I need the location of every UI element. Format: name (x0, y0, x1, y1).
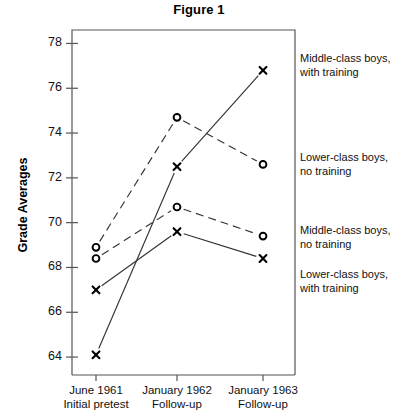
x-axis-tick-label: January 1963Follow-up (211, 383, 315, 411)
legend-label-line1: Middle-class boys, (300, 52, 398, 66)
series-2-marker-1 (174, 204, 181, 211)
y-axis-tick-label: 74 (28, 125, 62, 139)
y-axis-tick-label: 64 (28, 349, 62, 363)
legend-label-line2: with training (300, 66, 398, 80)
series-2-segment-1 (184, 209, 257, 234)
series-1-marker-2 (260, 161, 267, 168)
legend-item-1: Lower-class boys,no training (300, 151, 398, 178)
series-2-marker-0 (93, 255, 100, 262)
series-2-segment-0 (102, 211, 171, 255)
y-axis-tick-label: 70 (28, 215, 62, 229)
series-0-marker-2 (260, 67, 267, 74)
legend-label-line1: Lower-class boys, (300, 151, 398, 165)
series-3-marker-1 (174, 228, 181, 235)
figure-container: Figure 1 Grade Averages 6466687072747678… (0, 0, 398, 420)
x-tick-line2: Follow-up (211, 397, 315, 411)
series-1-marker-0 (93, 244, 100, 251)
series-3-segment-1 (184, 234, 257, 257)
y-axis-tick-label: 78 (28, 35, 62, 49)
y-axis-tick-label: 76 (28, 80, 62, 94)
legend-label-line2: no training (300, 238, 398, 252)
series-0-marker-0 (93, 351, 100, 358)
legend-item-0: Middle-class boys,with training (300, 52, 398, 79)
plot-frame (72, 30, 295, 375)
legend-label-line1: Lower-class boys, (300, 268, 398, 282)
series-1-segment-1 (183, 121, 257, 161)
legend-label-line2: no training (300, 165, 398, 179)
series-3-marker-0 (93, 286, 100, 293)
y-axis-tick-label: 68 (28, 259, 62, 273)
series-3-segment-0 (102, 236, 172, 286)
y-axis-tick-label: 66 (28, 304, 62, 318)
series-2-marker-2 (260, 233, 267, 240)
legend-label-line2: with training (300, 282, 398, 296)
series-1-marker-1 (174, 114, 181, 121)
series-1-segment-0 (100, 123, 174, 241)
series-3-marker-2 (260, 255, 267, 262)
x-tick-line1: January 1963 (211, 383, 315, 397)
series-0-segment-1 (182, 76, 259, 162)
series-0-marker-1 (174, 163, 181, 170)
legend-item-3: Lower-class boys,with training (300, 268, 398, 295)
y-axis-tick-label: 72 (28, 170, 62, 184)
legend-label-line1: Middle-class boys, (300, 224, 398, 238)
legend-item-2: Middle-class boys,no training (300, 224, 398, 251)
